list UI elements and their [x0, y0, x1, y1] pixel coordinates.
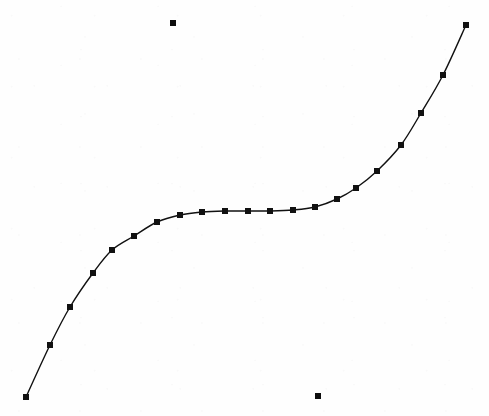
data-point-marker-10: [245, 208, 251, 214]
isolated-point-marker-1: [315, 393, 321, 399]
chart-figure: [0, 0, 489, 416]
data-point-marker-18: [418, 110, 424, 116]
data-point-marker-6: [154, 219, 160, 225]
data-point-marker-11: [267, 208, 273, 214]
data-point-marker-16: [374, 168, 380, 174]
data-point-marker-9: [222, 208, 228, 214]
data-point-marker-12: [290, 207, 296, 213]
data-point-marker-8: [199, 209, 205, 215]
data-point-marker-17: [398, 142, 404, 148]
data-point-marker-19: [440, 72, 446, 78]
data-point-marker-13: [312, 204, 318, 210]
data-point-marker-2: [67, 304, 73, 310]
data-point-marker-0: [23, 394, 29, 400]
data-point-marker-5: [131, 233, 137, 239]
data-point-marker-4: [109, 247, 115, 253]
data-point-marker-14: [334, 196, 340, 202]
plot-background: [0, 0, 489, 416]
data-point-marker-3: [90, 270, 96, 276]
data-point-marker-20: [463, 22, 469, 28]
data-point-marker-7: [177, 212, 183, 218]
plot-canvas: [0, 0, 489, 416]
data-point-marker-1: [47, 342, 53, 348]
data-point-marker-15: [353, 185, 359, 191]
isolated-point-marker-0: [170, 20, 176, 26]
